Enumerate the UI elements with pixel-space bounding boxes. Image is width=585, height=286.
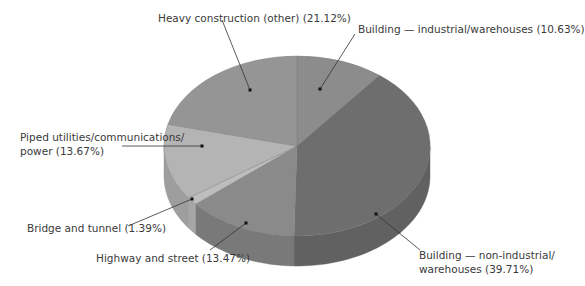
pie-top [164,56,430,236]
label-building-industrial: Building — industrial/warehouses (10.63%… [358,22,585,36]
leader-dot [375,213,378,216]
label-piped-utilities: Piped utilities/communications/ power (1… [20,130,184,158]
leader-dot [201,145,204,148]
label-nonind-line2: warehouses (39.71%) [419,262,555,276]
leader-dot [249,89,252,92]
label-heavy-construction: Heavy construction (other) (21.12%) [158,11,351,25]
leader-dot [191,198,194,201]
label-piped-line2: power (13.67%) [20,144,184,158]
label-bridge-tunnel: Bridge and tunnel (1.39%) [27,221,166,235]
label-piped-line1: Piped utilities/communications/ [20,130,184,144]
leader-dot [319,88,322,91]
label-highway-street: Highway and street (13.47%) [96,251,250,265]
label-building-nonindustrial: Building — non-industrial/ warehouses (3… [419,248,555,276]
leader-dot [245,222,248,225]
label-nonind-line1: Building — non-industrial/ [419,248,555,262]
